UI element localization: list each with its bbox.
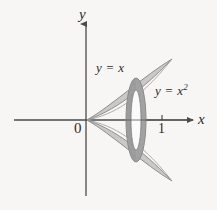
x-tick-label-1: 1 [158, 122, 165, 136]
curve-label-parabola-base: y = x [155, 83, 183, 98]
curve-label-line: y = x [96, 61, 124, 74]
y-axis-label: y [79, 7, 86, 22]
curve-label-parabola: y = x2 [155, 83, 188, 97]
solid-of-revolution-figure: y x 0 1 y = x y = x2 [0, 0, 217, 210]
figure-canvas [0, 0, 217, 210]
x-axis-label: x [198, 112, 205, 127]
origin-label: 0 [74, 121, 82, 136]
curve-label-parabola-exponent: 2 [183, 82, 188, 92]
